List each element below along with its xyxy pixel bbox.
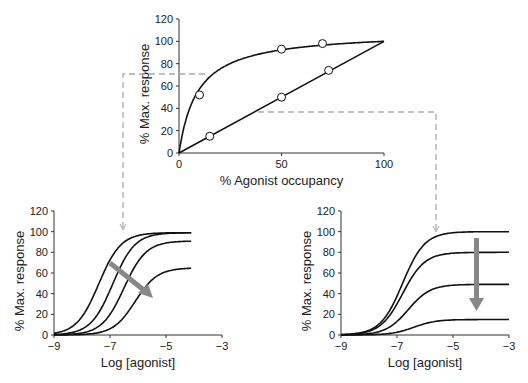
y-tick-label: 0 — [167, 147, 173, 159]
left-dose-response-chart: 020406080100120−9−7−5−3Log [agonist]% Ma… — [12, 205, 228, 370]
figure: 020406080100120050100% Agonist occupancy… — [0, 0, 528, 383]
y-tick-label: 40 — [36, 288, 48, 300]
y-tick-label: 120 — [155, 13, 173, 25]
y-tick-label: 60 — [323, 267, 335, 279]
y-axis-label: % Max. response — [12, 231, 27, 331]
data-point — [196, 91, 204, 99]
x-tick-label: 0 — [176, 158, 182, 170]
y-tick-label: 20 — [36, 308, 48, 320]
y-tick-label: 80 — [36, 246, 48, 258]
y-tick-label: 60 — [161, 80, 173, 92]
right-dose-response-chart: 020406080100120−9−7−5−3Log [agonist]% Ma… — [299, 205, 515, 370]
data-point — [319, 40, 327, 48]
occupancy-response-chart: 020406080100120050100% Agonist occupancy… — [137, 13, 393, 188]
y-tick-label: 20 — [161, 125, 173, 137]
data-point — [206, 132, 214, 140]
x-tick-label: 50 — [275, 158, 287, 170]
data-point — [278, 93, 286, 101]
y-tick-label: 60 — [36, 267, 48, 279]
y-axis-label: % Max. response — [299, 231, 314, 331]
x-axis-label: % Agonist occupancy — [220, 173, 344, 188]
y-tick-label: 100 — [317, 226, 335, 238]
connector-right — [258, 112, 436, 230]
y-tick-label: 40 — [323, 288, 335, 300]
y-tick-label: 80 — [323, 246, 335, 258]
x-tick-label: −5 — [160, 340, 173, 352]
y-tick-label: 80 — [161, 58, 173, 70]
y-tick-label: 20 — [323, 308, 335, 320]
data-point — [278, 45, 286, 53]
x-tick-label: −3 — [216, 340, 229, 352]
x-tick-label: −9 — [48, 340, 61, 352]
dose-response-curve — [54, 241, 191, 335]
y-tick-label: 120 — [317, 205, 335, 217]
y-tick-label: 120 — [30, 205, 48, 217]
x-axis-label: Log [agonist] — [101, 355, 175, 370]
data-point — [325, 66, 333, 74]
x-tick-label: −7 — [391, 340, 404, 352]
x-tick-label: −3 — [503, 340, 516, 352]
y-tick-label: 100 — [155, 35, 173, 47]
x-tick-label: −9 — [335, 340, 348, 352]
y-tick-label: 100 — [30, 226, 48, 238]
connector-left — [123, 74, 205, 228]
depression-arrow — [474, 238, 479, 300]
x-tick-label: −5 — [447, 340, 460, 352]
y-tick-label: 40 — [161, 102, 173, 114]
x-tick-label: 100 — [375, 158, 393, 170]
x-axis-label: Log [agonist] — [388, 355, 462, 370]
y-axis-label: % Max. response — [137, 44, 152, 144]
dose-response-curve — [341, 284, 509, 335]
x-tick-label: −7 — [104, 340, 117, 352]
